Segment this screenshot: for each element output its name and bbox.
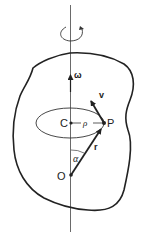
origin-o-label: O — [57, 170, 66, 182]
rho-label: ρ — [82, 118, 88, 128]
alpha-label: α — [73, 153, 79, 164]
point-p-label: P — [107, 117, 114, 129]
rotation-arrow-icon — [61, 27, 83, 41]
velocity-label: v — [99, 90, 104, 100]
position-label: r — [94, 142, 98, 152]
omega-label: ω — [74, 70, 82, 80]
center-c-label: C — [60, 117, 68, 129]
rigid-body-diagram: ω ρ C P v r α O — [0, 0, 143, 238]
